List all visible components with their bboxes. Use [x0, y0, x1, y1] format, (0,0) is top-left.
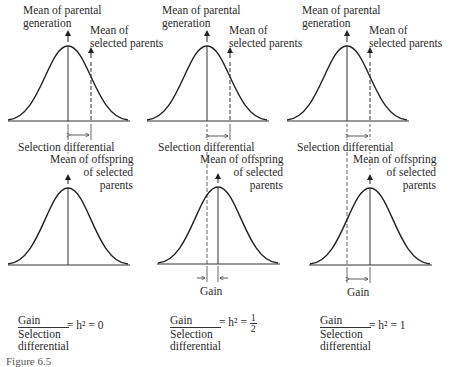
formula-equals: = h² =	[219, 316, 247, 328]
formula-denominator: differential	[170, 340, 221, 353]
formula-denominator: Selection	[18, 328, 69, 341]
gain-label-3: Gain	[347, 286, 369, 299]
label-line: of selected	[50, 166, 133, 179]
offspring-mean-label-3: Mean of offspring of selected parents	[353, 153, 436, 192]
label-line: Mean of offspring	[50, 153, 133, 166]
formula-denominator: differential	[320, 340, 371, 353]
offspring-mean-label-1: Mean of offspring of selected parents	[50, 153, 133, 192]
formula-numerator: Gain	[170, 314, 221, 328]
label-line: Mean of parental	[162, 4, 241, 17]
label-line: Mean of offspring	[200, 153, 283, 166]
formula-denominator: Selection	[170, 328, 221, 341]
formula-numerator: Gain	[320, 314, 371, 328]
label-line: selected parents	[90, 37, 163, 50]
label-line: Mean of parental	[302, 4, 381, 17]
formula-denominator: Selection	[320, 328, 371, 341]
label-line: selected parents	[369, 37, 442, 50]
formula-result-1: = h² = 0	[67, 319, 104, 331]
panel-1-top-curve	[8, 33, 130, 156]
label-line: Mean of	[90, 24, 163, 37]
offspring-mean-label-2: Mean of offspring of selected parents	[200, 153, 283, 192]
label-line: parents	[353, 179, 436, 192]
label-line: parents	[50, 179, 133, 192]
heritability-formula-1: Gain Selection differential	[18, 314, 69, 353]
formula-result-2: = h² = 1 2	[219, 313, 257, 334]
figure-caption: Figure 6.5	[6, 355, 51, 367]
selected-mean-label-3: Mean of selected parents	[369, 24, 442, 50]
selected-mean-label-1: Mean of selected parents	[90, 24, 163, 50]
selected-mean-label-2: Mean of selected parents	[229, 24, 302, 50]
label-line: Mean of	[229, 24, 302, 37]
formula-result-3: = h² = 1	[369, 319, 406, 331]
label-line: Mean of parental	[23, 4, 102, 17]
label-line: selected parents	[229, 37, 302, 50]
fraction-den: 2	[250, 324, 257, 334]
heritability-formula-3: Gain Selection differential	[320, 314, 371, 353]
formula-numerator: Gain	[18, 314, 69, 328]
formula-denominator: differential	[18, 340, 69, 353]
heritability-formula-2: Gain Selection differential	[170, 314, 221, 353]
label-line: of selected	[200, 166, 283, 179]
label-line: parents	[200, 179, 283, 192]
one-half-fraction: 1 2	[250, 313, 257, 334]
label-line: Mean of	[369, 24, 442, 37]
label-line: Mean of offspring	[353, 153, 436, 166]
gain-label-2: Gain	[200, 285, 222, 298]
label-line: of selected	[353, 166, 436, 179]
